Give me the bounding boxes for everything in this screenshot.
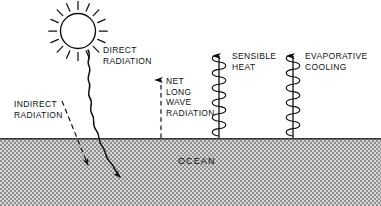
diagram-canvas: DIRECT RADIATION INDIRECT RADIATION NET … <box>0 0 381 206</box>
label-evaporative-cooling: EVAPORATIVE COOLING <box>305 51 368 72</box>
label-ocean: OCEAN <box>178 156 216 167</box>
label-sensible-heat: SENSIBLE HEAT <box>232 51 276 72</box>
label-indirect-radiation: INDIRECT RADIATION <box>14 99 63 120</box>
evaporative-cooling-arrow <box>286 55 300 138</box>
label-net-long-wave-radiation: NET LONG WAVE RADIATION <box>166 76 215 118</box>
ocean-body <box>0 138 381 206</box>
label-direct-radiation: DIRECT RADIATION <box>103 45 152 66</box>
sun-icon <box>49 2 108 61</box>
